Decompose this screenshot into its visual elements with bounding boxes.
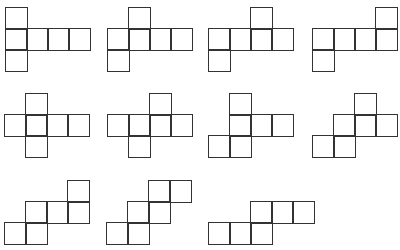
net-square — [375, 7, 398, 30]
net-square — [46, 114, 69, 137]
net-square — [271, 201, 294, 224]
net-square — [375, 28, 398, 51]
net-square — [208, 222, 231, 245]
net-square — [107, 114, 130, 137]
net-square — [67, 201, 90, 224]
net-square — [5, 28, 28, 51]
net-square — [333, 135, 356, 158]
net-square — [128, 7, 151, 30]
net-square — [208, 135, 231, 158]
net-square — [67, 180, 90, 203]
net-square — [312, 28, 335, 51]
net-square — [149, 28, 172, 51]
net-square — [25, 222, 48, 245]
net-square — [354, 28, 377, 51]
net-square — [169, 180, 192, 203]
net-square — [170, 28, 193, 51]
net-square — [25, 114, 48, 137]
net-square — [271, 28, 294, 51]
net-square — [208, 49, 231, 72]
net-square — [354, 93, 377, 116]
net-square — [107, 28, 130, 51]
net-square — [128, 135, 151, 158]
net-square — [46, 201, 69, 224]
net-square — [26, 28, 49, 51]
net-square — [106, 222, 129, 245]
net-square — [25, 135, 48, 158]
net-square — [229, 114, 252, 137]
net-square — [47, 28, 70, 51]
net-square — [312, 135, 335, 158]
net-square — [128, 114, 151, 137]
net-square — [67, 114, 90, 137]
net-square — [229, 93, 252, 116]
net-square — [127, 222, 150, 245]
net-square — [4, 114, 27, 137]
net-square — [148, 201, 171, 224]
net-square — [149, 114, 172, 137]
net-square — [128, 28, 151, 51]
net-square — [4, 222, 27, 245]
net-square — [250, 222, 273, 245]
net-square — [127, 201, 150, 224]
net-square — [170, 114, 193, 137]
cube-nets-diagram — [0, 0, 400, 250]
net-square — [292, 201, 315, 224]
net-square — [354, 114, 377, 137]
net-square — [333, 114, 356, 137]
net-square — [229, 135, 252, 158]
net-square — [250, 7, 273, 30]
net-square — [312, 49, 335, 72]
net-square — [68, 28, 91, 51]
net-square — [333, 28, 356, 51]
net-square — [208, 28, 231, 51]
net-square — [148, 180, 171, 203]
net-square — [375, 114, 398, 137]
net-square — [107, 49, 130, 72]
net-square — [5, 49, 28, 72]
net-square — [250, 28, 273, 51]
net-square — [250, 201, 273, 224]
net-square — [149, 93, 172, 116]
net-square — [229, 28, 252, 51]
net-square — [25, 201, 48, 224]
net-square — [25, 93, 48, 116]
net-square — [271, 114, 294, 137]
net-square — [250, 114, 273, 137]
net-square — [229, 222, 252, 245]
net-square — [5, 7, 28, 30]
